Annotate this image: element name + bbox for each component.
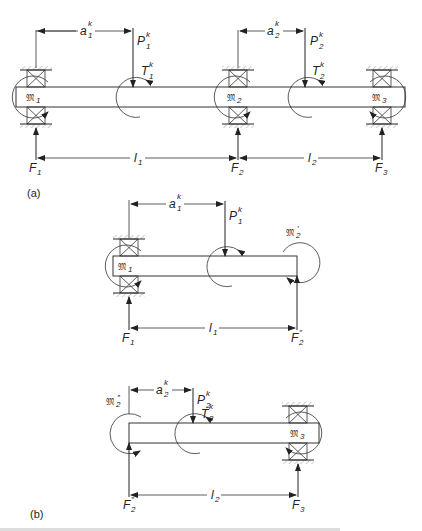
svg-text:″: ″ [131, 495, 135, 504]
svg-text:3: 3 [300, 505, 305, 514]
dim-l1-b: l 1 [131, 321, 295, 337]
panel-b-lower: a 2 k P 2 k T 2 k 𝔐 2 ″ 𝔐 3 F [30, 378, 322, 520]
svg-text:a: a [169, 197, 176, 211]
svg-text:k: k [88, 19, 93, 28]
svg-text:2: 2 [238, 168, 244, 177]
svg-text:2: 2 [214, 495, 220, 504]
svg-text:P: P [197, 393, 205, 407]
svg-text:l: l [134, 151, 137, 165]
svg-text:1: 1 [88, 31, 92, 40]
reaction-f2pp-b: F 2 ″ [291, 276, 304, 347]
svg-text:k: k [209, 402, 214, 411]
reaction-f3: F 3 [375, 128, 388, 177]
svg-text:l: l [211, 488, 214, 502]
svg-text:k: k [320, 60, 325, 69]
dim-a2-label: a [267, 24, 274, 38]
svg-text:3: 3 [300, 432, 305, 441]
svg-text:𝔐: 𝔐 [286, 228, 295, 238]
shaft-diagram: a 1 k a 2 k P 1 k T 1 k P 2 [0, 0, 422, 531]
svg-text:″: ″ [299, 328, 303, 337]
ground-hatch [282, 402, 314, 406]
svg-text:1: 1 [146, 42, 150, 51]
dim-l2: l 2 [240, 151, 380, 167]
svg-text:F: F [231, 161, 239, 175]
reaction-f1: F 1 [29, 128, 41, 177]
ground-hatch [113, 293, 145, 297]
panel-a: a 1 k a 2 k P 1 k T 1 k P 2 [12, 19, 405, 199]
svg-text:3: 3 [382, 96, 387, 105]
svg-text:k: k [238, 205, 243, 214]
reaction-f1-b: F 1 [122, 297, 134, 347]
panel-a-tag: (a) [27, 187, 40, 199]
svg-text:1: 1 [130, 338, 134, 347]
svg-text:1: 1 [37, 168, 41, 177]
svg-text:𝔐: 𝔐 [26, 93, 35, 103]
svg-text:2: 2 [311, 158, 317, 167]
load-p2-label: P [310, 34, 318, 48]
svg-text:1: 1 [238, 217, 242, 226]
svg-text:1: 1 [128, 265, 132, 274]
svg-text:k: k [177, 192, 182, 201]
dim-a1: a 1 k [38, 19, 131, 40]
svg-text:k: k [149, 60, 154, 69]
svg-text:2: 2 [130, 505, 136, 514]
shaft-b-upper [113, 256, 297, 276]
svg-text:k: k [146, 30, 151, 39]
reaction-f2: F 2 [231, 128, 244, 177]
svg-text:1: 1 [149, 72, 153, 81]
svg-text:1: 1 [177, 204, 181, 213]
svg-text:k: k [206, 389, 211, 398]
svg-text:𝔐: 𝔐 [372, 93, 381, 103]
panel-b-tag: (b) [30, 508, 43, 520]
panel-b-upper: a 1 k P 1 k 𝔐 1 𝔐 2 ′ F 1 F 2 [105, 192, 320, 347]
svg-text:F: F [292, 498, 300, 512]
svg-text:2: 2 [298, 338, 304, 347]
svg-text:k: k [319, 30, 324, 39]
svg-text:l: l [209, 321, 212, 335]
svg-text:k: k [275, 19, 280, 28]
ground-hatch [366, 124, 398, 128]
dim-a2: a 2 k [240, 19, 303, 40]
svg-text:2: 2 [318, 42, 324, 51]
ground-hatch [20, 124, 52, 128]
svg-text:2: 2 [274, 31, 280, 40]
svg-text:P: P [229, 209, 237, 223]
svg-text:F: F [123, 498, 131, 512]
shaft-a [16, 87, 405, 107]
svg-text:F: F [375, 161, 383, 175]
svg-text:1: 1 [213, 328, 217, 337]
dim-l2-b: l 2 [131, 488, 296, 504]
ground-hatch [282, 460, 314, 464]
dim-a2-b: a 2 k [131, 378, 191, 399]
dim-l1: l 1 [38, 151, 236, 167]
svg-text:𝔐: 𝔐 [118, 262, 127, 272]
svg-text:l: l [308, 151, 311, 165]
load-p1-label: P [137, 34, 145, 48]
reaction-f3-b: F 3 [292, 464, 305, 514]
svg-text:F: F [122, 331, 130, 345]
svg-text:F: F [29, 161, 37, 175]
svg-text:F: F [291, 331, 299, 345]
svg-text:1: 1 [138, 158, 142, 167]
svg-text:2: 2 [163, 390, 169, 399]
svg-text:k: k [164, 378, 169, 387]
svg-text:2: 2 [208, 414, 214, 423]
svg-text:2: 2 [236, 96, 242, 105]
ground-hatch [222, 124, 254, 128]
svg-text:1: 1 [36, 96, 40, 105]
svg-text:𝔐: 𝔐 [106, 397, 115, 407]
svg-text:a: a [156, 383, 163, 397]
ground-hatch [366, 66, 398, 70]
svg-text:𝔐: 𝔐 [227, 93, 236, 103]
dim-a1-b: a 1 k [131, 192, 223, 213]
svg-text:𝔐: 𝔐 [290, 429, 299, 439]
svg-text:3: 3 [383, 168, 388, 177]
dim-a1-label: a [80, 24, 87, 38]
svg-text:2: 2 [319, 72, 325, 81]
